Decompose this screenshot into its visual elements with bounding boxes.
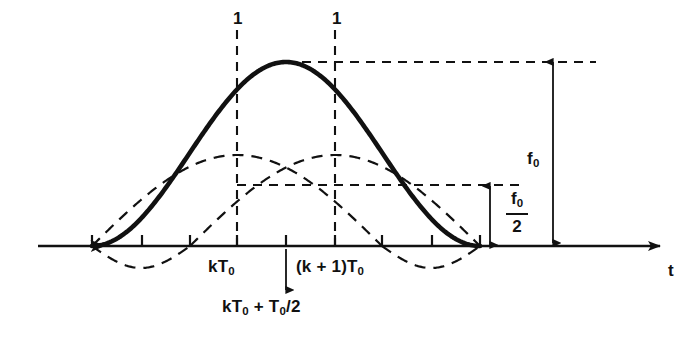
figure-root: 1 1 kT0 (k + 1)T0 kT0 + T0/2 t f0 f0 2	[0, 0, 694, 342]
axis-name-t: t	[668, 262, 674, 279]
axis-label-k-plus-1-T0: (k + 1)T0	[296, 258, 364, 278]
fraction-numerator: f0	[506, 190, 528, 212]
amplitude-label-one-right: 1	[332, 10, 342, 27]
diagram-canvas	[0, 0, 694, 342]
fraction-bar	[506, 213, 528, 215]
axis-label-kT0-plus-half-T0: kT0 + T0/2	[222, 298, 301, 318]
axis-label-kT0: kT0	[208, 258, 235, 278]
axis-tick-marks	[92, 235, 480, 246]
dimension-arrows	[286, 62, 553, 290]
dimension-label-f0: f0	[527, 150, 539, 170]
amplitude-label-one-left: 1	[233, 10, 243, 27]
dashed-horizontal-guides	[237, 62, 596, 185]
composite-pulse-curve	[92, 62, 480, 246]
time-axis-group	[38, 235, 660, 246]
fraction-denominator: 2	[506, 217, 528, 235]
dimension-label-f0-over-2: f0 2	[506, 190, 528, 235]
